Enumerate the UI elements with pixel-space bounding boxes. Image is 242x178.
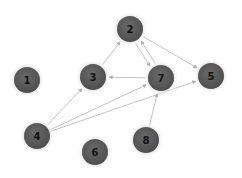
edge-7-to-3 bbox=[109, 77, 146, 78]
node-label: 3 bbox=[90, 72, 97, 83]
node-label: 8 bbox=[143, 135, 150, 146]
node-4[interactable]: 4 bbox=[19, 118, 55, 154]
edge-2-to-7 bbox=[135, 43, 149, 66]
node-label: 2 bbox=[127, 24, 134, 35]
node-6[interactable]: 6 bbox=[77, 134, 113, 170]
node-1[interactable]: 1 bbox=[9, 62, 45, 98]
edge-4-to-3 bbox=[47, 89, 82, 126]
node-3[interactable]: 3 bbox=[75, 59, 111, 95]
edge-3-to-2 bbox=[102, 42, 120, 65]
node-2[interactable]: 2 bbox=[112, 11, 148, 47]
node-5[interactable]: 5 bbox=[193, 58, 229, 94]
node-label: 1 bbox=[24, 75, 31, 86]
node-label: 7 bbox=[158, 73, 165, 84]
edge-7-to-2 bbox=[141, 41, 155, 64]
nodes-layer: 12345678 bbox=[9, 11, 229, 170]
node-label: 5 bbox=[208, 71, 215, 82]
graph-canvas: 12345678 bbox=[0, 0, 242, 178]
node-7[interactable]: 7 bbox=[143, 60, 179, 96]
node-label: 6 bbox=[92, 147, 99, 158]
edge-8-to-7 bbox=[150, 94, 158, 126]
node-8[interactable]: 8 bbox=[128, 122, 164, 158]
node-label: 4 bbox=[34, 131, 41, 142]
